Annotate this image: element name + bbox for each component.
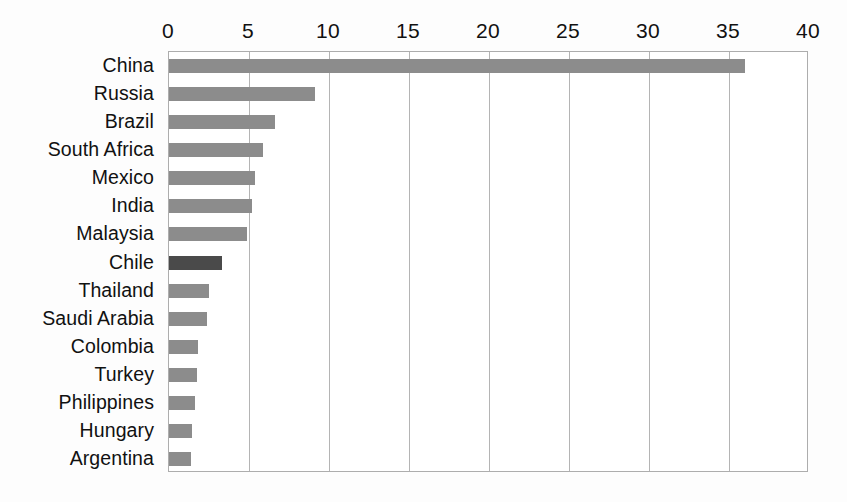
bar bbox=[169, 368, 197, 382]
bar bbox=[169, 452, 191, 466]
bar bbox=[169, 59, 745, 73]
y-tick-label: Colombia bbox=[71, 336, 154, 356]
y-tick-label: Turkey bbox=[95, 364, 154, 384]
y-tick-label: Mexico bbox=[92, 167, 154, 187]
bar bbox=[169, 424, 192, 438]
x-tick-label: 10 bbox=[316, 18, 340, 44]
gridline bbox=[489, 52, 490, 471]
x-tick-label: 0 bbox=[162, 18, 174, 44]
y-tick-label: Argentina bbox=[70, 448, 154, 468]
plot-area bbox=[168, 51, 808, 472]
gridline bbox=[569, 52, 570, 471]
x-tick-label: 40 bbox=[796, 18, 820, 44]
y-tick-label: Malaysia bbox=[76, 223, 154, 243]
y-tick-label: Saudi Arabia bbox=[42, 308, 154, 328]
y-tick-label: Brazil bbox=[105, 111, 154, 131]
gridline bbox=[729, 52, 730, 471]
y-tick-label: India bbox=[111, 195, 154, 215]
x-tick-label: 15 bbox=[396, 18, 420, 44]
gridline bbox=[329, 52, 330, 471]
y-tick-label: Russia bbox=[94, 83, 154, 103]
bar bbox=[169, 312, 207, 326]
y-tick-label: Chile bbox=[109, 252, 154, 272]
y-axis-category-labels: ChinaRussiaBrazilSouth AfricaMexicoIndia… bbox=[0, 51, 162, 472]
gridline bbox=[649, 52, 650, 471]
bar bbox=[169, 171, 255, 185]
bar bbox=[169, 284, 209, 298]
x-axis-tick-labels: 0510152025303540 bbox=[0, 18, 847, 44]
x-tick-label: 25 bbox=[556, 18, 580, 44]
y-tick-label: Thailand bbox=[78, 280, 154, 300]
bar bbox=[169, 340, 198, 354]
y-tick-label: China bbox=[103, 55, 154, 75]
bar bbox=[169, 199, 252, 213]
x-tick-label: 5 bbox=[242, 18, 254, 44]
x-tick-label: 35 bbox=[716, 18, 740, 44]
y-tick-label: Hungary bbox=[80, 420, 154, 440]
gridline bbox=[409, 52, 410, 471]
bar bbox=[169, 115, 275, 129]
bar-chart: 0510152025303540 ChinaRussiaBrazilSouth … bbox=[0, 0, 847, 502]
bar bbox=[169, 227, 247, 241]
x-tick-label: 20 bbox=[476, 18, 500, 44]
y-tick-label: Philippines bbox=[59, 392, 154, 412]
bar bbox=[169, 256, 222, 270]
bar bbox=[169, 87, 315, 101]
y-tick-label: South Africa bbox=[48, 139, 154, 159]
bar bbox=[169, 396, 195, 410]
x-tick-label: 30 bbox=[636, 18, 660, 44]
bar bbox=[169, 143, 263, 157]
